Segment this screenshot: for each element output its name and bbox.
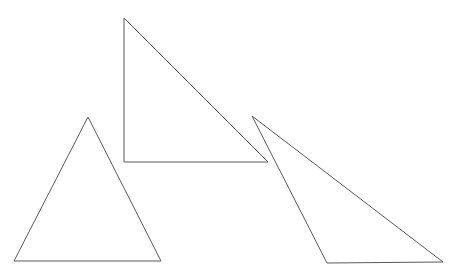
shapes-svg: [0, 0, 456, 280]
canvas-background: [0, 0, 456, 280]
diagram-canvas: [0, 0, 456, 280]
